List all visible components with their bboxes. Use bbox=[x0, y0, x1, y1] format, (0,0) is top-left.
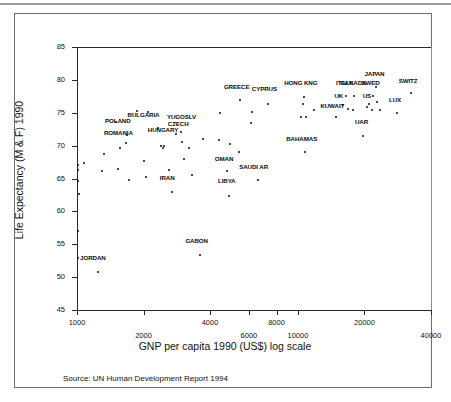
axis-top-spine bbox=[77, 47, 432, 48]
data-point-label: UK bbox=[334, 92, 343, 99]
data-point bbox=[218, 139, 220, 141]
figure-container: Life Expectancy (M & F) 1990 GNP per cap… bbox=[14, 13, 432, 388]
data-point bbox=[103, 153, 105, 155]
data-point bbox=[101, 170, 103, 172]
x-tick-label: 1000 bbox=[69, 319, 86, 327]
data-point bbox=[119, 147, 121, 149]
data-point-label: OMAN bbox=[215, 155, 234, 162]
x-tick-mark bbox=[77, 310, 78, 315]
x-tick-mark bbox=[144, 310, 145, 315]
data-point-label: JAPAN bbox=[364, 70, 384, 77]
data-point bbox=[375, 86, 377, 88]
plot-area: 455055606570758085 100020004000600080001… bbox=[77, 47, 432, 311]
data-point bbox=[250, 122, 252, 124]
x-tick-mark bbox=[210, 310, 211, 315]
data-point bbox=[199, 254, 201, 256]
x-tick-label: 6000 bbox=[241, 332, 258, 340]
data-point-label: HUNGARY bbox=[148, 126, 178, 133]
x-tick-label: 4000 bbox=[202, 319, 219, 327]
data-point bbox=[371, 109, 373, 111]
y-tick-label: 60 bbox=[43, 207, 65, 215]
y-tick-label: 70 bbox=[43, 142, 65, 150]
x-tick-label: 8000 bbox=[268, 319, 285, 327]
data-point bbox=[267, 103, 269, 105]
data-point-label: US bbox=[363, 92, 371, 99]
y-tick-mark: 80 bbox=[72, 80, 77, 81]
axis-right-spine bbox=[431, 47, 432, 311]
data-point-label: GREECE bbox=[224, 83, 250, 90]
data-point-label: CZECH bbox=[168, 120, 189, 127]
data-point bbox=[300, 116, 302, 118]
data-point bbox=[175, 133, 177, 135]
y-tick-label: 45 bbox=[43, 306, 65, 314]
source-note: Source: UN Human Development Report 1994 bbox=[63, 374, 228, 384]
x-tick-mark bbox=[364, 310, 365, 315]
data-point bbox=[396, 112, 398, 114]
data-point bbox=[379, 109, 381, 111]
data-point bbox=[257, 179, 259, 181]
data-point bbox=[229, 143, 231, 145]
x-tick-mark bbox=[277, 310, 278, 315]
data-point-label: SWITZ bbox=[399, 77, 418, 84]
data-point-label: SWED bbox=[361, 79, 379, 86]
data-point bbox=[238, 151, 240, 153]
data-point-label: JORDAN bbox=[80, 254, 106, 261]
data-point bbox=[313, 109, 315, 111]
y-tick-mark: 75 bbox=[72, 113, 77, 114]
data-point-label: YUGOSLV bbox=[167, 113, 196, 120]
data-point bbox=[372, 95, 374, 97]
data-point bbox=[366, 106, 368, 108]
y-tick-mark: 85 bbox=[72, 47, 77, 48]
data-point bbox=[77, 180, 79, 182]
data-point-label: HONG KNG bbox=[284, 79, 317, 86]
data-point-label: CYPRUS bbox=[252, 85, 277, 92]
data-point-label: UAR bbox=[355, 118, 368, 125]
data-point bbox=[181, 141, 183, 143]
data-point bbox=[376, 101, 378, 103]
data-point-label: BAHAMAS bbox=[286, 135, 317, 142]
y-tick-label: 50 bbox=[43, 273, 65, 281]
x-axis-title: GNP per capita 1990 (US$) log scale bbox=[45, 340, 405, 352]
x-tick-label: 10000 bbox=[288, 332, 309, 340]
x-tick-label: 20000 bbox=[354, 319, 375, 327]
data-point bbox=[77, 169, 79, 171]
y-tick-label: 80 bbox=[43, 76, 65, 84]
y-axis-title: Life Expectancy (M & F) 1990 bbox=[13, 50, 25, 290]
y-tick-label: 65 bbox=[43, 175, 65, 183]
data-point bbox=[83, 162, 85, 164]
data-point bbox=[168, 169, 170, 171]
data-point bbox=[117, 168, 119, 170]
data-point bbox=[302, 103, 304, 105]
y-tick-mark: 60 bbox=[72, 211, 77, 212]
data-point bbox=[303, 96, 305, 98]
x-tick-label: 2000 bbox=[135, 332, 152, 340]
data-point bbox=[183, 158, 185, 160]
data-point bbox=[77, 257, 79, 259]
axis-bottom-spine bbox=[77, 310, 432, 311]
data-point bbox=[180, 131, 182, 133]
data-point bbox=[368, 103, 370, 105]
data-point-label: ROMANIA bbox=[104, 129, 133, 136]
y-tick-label: 55 bbox=[43, 240, 65, 248]
data-point bbox=[335, 116, 337, 118]
data-point bbox=[143, 160, 145, 162]
data-point bbox=[191, 174, 193, 176]
data-point bbox=[362, 135, 364, 137]
y-tick-mark: 55 bbox=[72, 244, 77, 245]
data-point bbox=[347, 108, 349, 110]
data-point bbox=[342, 104, 344, 106]
data-point-label: SAUDI AR bbox=[239, 163, 268, 170]
data-point bbox=[77, 230, 79, 232]
x-tick-mark bbox=[431, 310, 432, 315]
data-point bbox=[128, 179, 130, 181]
data-point bbox=[97, 271, 99, 273]
data-point-label: BULGARIA bbox=[128, 111, 160, 118]
data-point bbox=[202, 138, 204, 140]
data-point bbox=[145, 176, 147, 178]
data-point bbox=[125, 142, 127, 144]
data-point-label: LUX bbox=[389, 96, 401, 103]
x-tick-mark bbox=[298, 310, 299, 315]
y-tick-mark: 50 bbox=[72, 277, 77, 278]
data-point bbox=[353, 95, 355, 97]
x-tick-mark bbox=[249, 310, 250, 315]
